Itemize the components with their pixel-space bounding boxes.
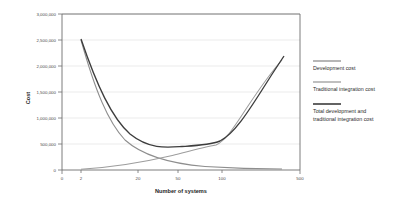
legend-label-traditional-integration-cost: Traditional integration cost [313,86,375,92]
x-tick-label-500: 500 [296,176,304,181]
y-tick-label-500000: 500,000 [40,142,56,147]
x-axis-title: Number of systems [155,188,207,194]
x-tick-label-2: 2 [80,176,83,181]
y-axis-title: Cost [25,92,31,105]
line-chart: 3,000,000 2,500,000 2,000,000 1,500,000 … [0,0,417,202]
chart-legend: Development cost Traditional integration… [313,61,375,122]
legend-label-development-cost: Development cost [313,65,356,71]
y-axis-ticks [58,14,62,170]
x-axis-ticks [62,170,300,174]
y-tick-label-1000000: 1,000,000 [36,116,56,121]
gridlines [62,14,300,144]
y-tick-label-3000000: 3,000,000 [36,12,56,17]
y-tick-label-2500000: 2,500,000 [36,38,56,43]
x-tick-label-50: 50 [176,176,181,181]
series-line-traditional-integration-cost [81,60,282,169]
x-tick-label-100: 100 [218,176,226,181]
y-tick-label-1500000: 1,500,000 [36,90,56,95]
x-tick-label-0: 0 [61,176,64,181]
legend-label-total-cost-line2: traditional integration cost [313,116,374,122]
chart-figure: 3,000,000 2,500,000 2,000,000 1,500,000 … [0,0,417,202]
legend-label-total-cost-line1: Total development and [313,108,366,114]
y-tick-label-0: 0 [54,168,57,173]
y-tick-label-2000000: 2,000,000 [36,64,56,69]
x-tick-label-20: 20 [136,176,141,181]
series-line-total-cost [81,39,284,147]
